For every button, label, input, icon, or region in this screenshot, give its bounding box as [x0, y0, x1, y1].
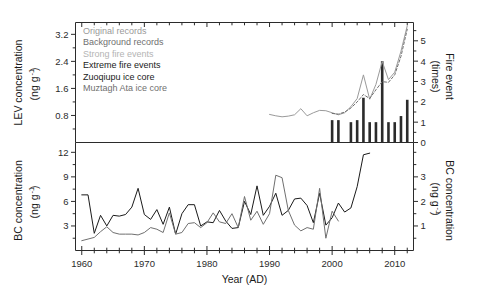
- lev-y-tick-label: 1.6: [55, 83, 68, 94]
- fire-event-bar: [337, 120, 340, 142]
- svg-text:(ng g: (ng g: [28, 194, 40, 218]
- legend-item-5: Muztagh Ata ice core: [83, 83, 167, 93]
- bc-y-tick-label: 6: [63, 196, 68, 207]
- bc-series-zuoqiupu-ice-core: [82, 153, 370, 234]
- fire-event-axis: 012345Fire event(times): [414, 31, 457, 148]
- lev-series-original-records: [270, 26, 408, 117]
- x-tick-label: 2010: [384, 258, 405, 269]
- fire-y-axis-units: (times): [430, 60, 442, 92]
- fire-event-bar: [350, 122, 353, 142]
- fire-y-tick-label: 0: [421, 137, 426, 148]
- fire-y-tick-label: 2: [421, 96, 426, 107]
- fire-event-bar: [331, 120, 334, 142]
- svg-text:): ): [430, 212, 442, 216]
- fire-event-bars: [331, 61, 409, 142]
- bc-series-muztagh-ata-ice-core: [82, 175, 339, 240]
- fire-event-bar: [368, 122, 371, 142]
- x-tick-label: 1970: [134, 258, 155, 269]
- bc-y-axis: 36912BC concentration(ng g-1): [12, 147, 76, 241]
- x-axis-label: Year (AD): [222, 273, 268, 285]
- x-tick-label: 1980: [196, 258, 217, 269]
- fire-event-bar: [356, 120, 359, 142]
- scientific-figure: 196019701980199020002010Year (AD)0.81.62…: [0, 0, 483, 291]
- lev-y-axis-label: LEV concentration: [12, 39, 24, 125]
- fire-event-bar: [362, 98, 365, 143]
- lev-y-axis: 0.81.62.43.2LEV concentration(ng g-1): [12, 29, 76, 129]
- bc-y-tick-label: 3: [63, 220, 68, 231]
- x-tick-label: 2000: [322, 258, 343, 269]
- lev-y-tick-label: 3.2: [55, 29, 68, 40]
- legend-item-0: Original records: [83, 26, 147, 36]
- lev-y-tick-label: 0.8: [55, 110, 68, 121]
- fire-event-bar: [393, 122, 396, 142]
- svg-text:(ng g: (ng g: [28, 76, 40, 100]
- x-tick-label: 1990: [259, 258, 280, 269]
- bc-y2-tick-label: 1: [421, 220, 426, 231]
- lev-y-units: (ng g-1): [27, 68, 40, 101]
- fire-y-tick-label: 5: [421, 35, 426, 46]
- fire-event-bar: [406, 100, 409, 143]
- bc-y2-axis: 123BC concentration(ng g-1): [414, 152, 457, 241]
- bc-y2-axis-label: BC concentration: [444, 160, 456, 241]
- legend: Original recordsBackground recordsStrong…: [83, 26, 167, 93]
- fire-event-bar: [375, 122, 378, 142]
- bc-y2-tick-label: 2: [421, 196, 426, 207]
- bc-series-group: [82, 153, 370, 241]
- bc-y-tick-label: 12: [58, 147, 69, 158]
- lev-series-background-records: [332, 29, 407, 114]
- lev-y-tick-label: 2.4: [55, 56, 68, 67]
- fire-y-tick-label: 3: [421, 76, 426, 87]
- figure-root: 196019701980199020002010Year (AD)0.81.62…: [0, 0, 483, 291]
- svg-text:): ): [28, 68, 40, 72]
- fire-y-tick-label: 4: [421, 56, 426, 67]
- x-tick-label: 1960: [71, 258, 92, 269]
- bc-y2-units: (ng g-1): [430, 183, 443, 216]
- svg-text:): ): [28, 186, 40, 190]
- fire-y-axis-label: Fire event: [444, 53, 456, 100]
- fire-event-bar: [387, 122, 390, 142]
- bc-y2-tick-label: 3: [421, 171, 426, 182]
- bc-y-tick-label: 9: [63, 171, 68, 182]
- fire-event-bar: [381, 61, 384, 142]
- fire-y-tick-label: 1: [421, 117, 426, 128]
- svg-text:(ng g: (ng g: [430, 183, 442, 207]
- legend-item-2: Strong fire events: [83, 49, 154, 59]
- bc-y-axis-label: BC concentration: [12, 160, 24, 241]
- legend-item-3: Extreme fire events: [83, 60, 161, 70]
- fire-event-bar: [400, 116, 403, 142]
- lev-series-group: [270, 26, 408, 117]
- bc-y-units: (ng g-1): [27, 186, 40, 219]
- legend-item-1: Background records: [83, 37, 164, 47]
- legend-item-4: Zuoqiupu ice core: [83, 72, 155, 82]
